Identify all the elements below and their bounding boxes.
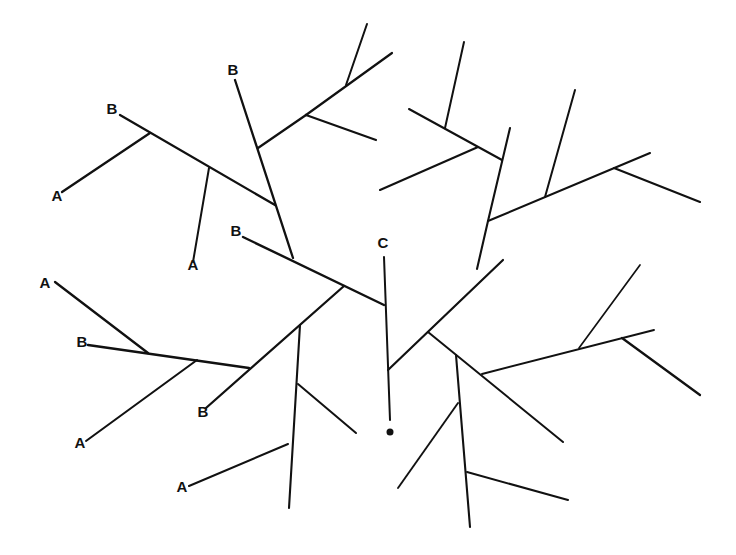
branch-segment <box>243 237 384 305</box>
branch-segment <box>62 133 150 192</box>
node-label-a: A <box>177 478 188 495</box>
branch-segment <box>289 325 300 508</box>
node-label-a: A <box>188 256 199 273</box>
branch-segment <box>545 90 575 197</box>
branch-segment <box>482 330 654 374</box>
node-label-c: C <box>378 234 389 251</box>
node-label-b: B <box>231 222 242 239</box>
branch-segment <box>258 115 306 148</box>
branch-segment <box>88 345 249 368</box>
branching-tree-diagram: BABABCABABA <box>0 0 736 555</box>
branch-segment <box>428 332 563 442</box>
root-marker-dot <box>387 429 394 436</box>
branch-segment <box>380 147 478 190</box>
branch-segment <box>445 42 464 128</box>
branch-segment <box>388 260 503 370</box>
branch-segment <box>346 24 367 85</box>
node-label-a: A <box>40 274 51 291</box>
branch-segment <box>488 153 650 221</box>
branch-segment <box>298 384 356 433</box>
tree-branches <box>55 24 700 527</box>
branch-segment <box>477 221 488 269</box>
branch-segment <box>193 168 209 262</box>
branch-segment <box>456 355 470 527</box>
node-label-b: B <box>228 61 239 78</box>
branch-segment <box>384 257 390 420</box>
node-label-b: B <box>77 333 88 350</box>
node-label-b: B <box>107 100 118 117</box>
branch-segment <box>306 53 392 115</box>
branch-segment <box>55 282 148 353</box>
branch-segment <box>622 338 700 395</box>
node-label-a: A <box>52 187 63 204</box>
branch-segment <box>467 472 568 500</box>
branch-segment <box>206 286 344 408</box>
branch-segment <box>409 109 502 160</box>
branch-segment <box>86 360 197 441</box>
node-label-a: A <box>75 434 86 451</box>
branch-segment <box>306 115 376 140</box>
branch-segment <box>189 444 288 486</box>
branch-segment <box>614 168 700 202</box>
branch-segment <box>488 128 510 221</box>
node-label-b: B <box>198 403 209 420</box>
branch-segment <box>398 403 458 488</box>
branch-segment <box>235 80 293 258</box>
